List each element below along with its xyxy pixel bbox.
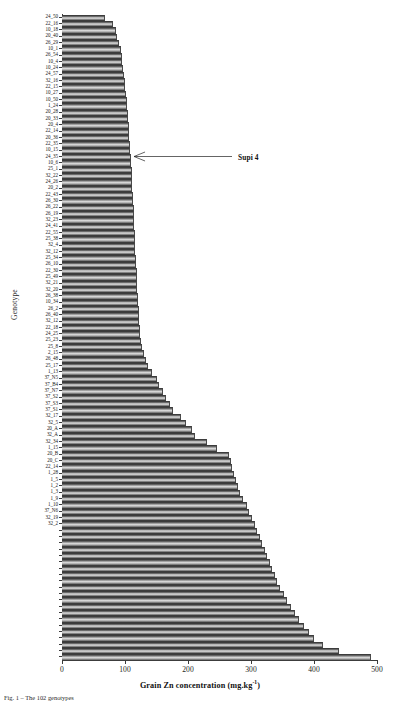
- genotype-label: 25_49: [46, 273, 59, 279]
- bar: [62, 559, 270, 565]
- genotype-label: 10_1: [48, 45, 58, 51]
- bar: [62, 388, 163, 394]
- genotype-label: 22_35: [46, 140, 59, 146]
- genotype-label: 26_40: [46, 311, 59, 317]
- genotype-label: 22_15: [46, 83, 59, 89]
- genotype-label: 26_30: [46, 197, 59, 203]
- x-axis-tick-label: 400: [308, 665, 319, 674]
- x-axis-tick-label: 0: [60, 665, 64, 674]
- x-axis-tick: [251, 660, 252, 664]
- bar: [62, 312, 139, 318]
- genotype-label: 37_N7: [44, 387, 58, 393]
- bar: [62, 198, 133, 204]
- genotype-label: 1_24: [48, 102, 58, 108]
- bar: [62, 445, 217, 451]
- genotype-label: 24_25: [46, 330, 59, 336]
- bar: [62, 293, 138, 299]
- bar: [62, 654, 371, 660]
- bar: [62, 426, 192, 432]
- bar: [62, 616, 299, 622]
- bar: [62, 160, 131, 166]
- bar: [62, 65, 123, 71]
- bar: [62, 635, 314, 641]
- plot-area: 24_5022_1610_1820_4026_2910_126_5410_410…: [62, 14, 377, 660]
- genotype-label: 2_15: [48, 349, 58, 355]
- figure-container: Genotype 24_5022_1610_1820_4026_2910_126…: [0, 0, 400, 707]
- bar: [62, 464, 232, 470]
- genotype-label: 37_S1: [45, 406, 58, 412]
- bar: [62, 578, 277, 584]
- bar: [62, 27, 116, 33]
- x-axis-tick-label: 100: [119, 665, 130, 674]
- bar: [62, 483, 238, 489]
- genotype-label: 20_A: [47, 425, 58, 431]
- annotation-label: Supi 4: [238, 153, 259, 162]
- genotype-label: 10_6: [48, 159, 58, 165]
- genotype-label: 1_2: [51, 482, 59, 488]
- bar: [62, 141, 130, 147]
- bar: [62, 236, 135, 242]
- genotype-label: 24_26: [46, 178, 59, 184]
- genotype-label: 1_13: [48, 368, 58, 374]
- genotype-label: 1_10: [48, 501, 58, 507]
- bar: [62, 274, 137, 280]
- bar: [62, 521, 255, 527]
- bar: [62, 255, 136, 261]
- bar: [62, 597, 287, 603]
- y-axis-title: Genotype: [10, 265, 19, 345]
- genotype-label: 26_38: [46, 292, 59, 298]
- bar: [62, 502, 247, 508]
- bar: [62, 217, 134, 223]
- x-axis-tick-label: 500: [371, 665, 382, 674]
- bar: [62, 103, 127, 109]
- bar: [62, 369, 152, 375]
- x-axis-tick-label: 200: [182, 665, 193, 674]
- x-axis-tick: [314, 660, 315, 664]
- bar: [62, 407, 173, 413]
- figure-caption: Fig. 1 – The 102 genotypes: [4, 694, 396, 701]
- genotype-label: 25_34: [46, 254, 59, 260]
- x-axis-title-suffix: ): [257, 681, 260, 690]
- genotype-label: 32_23: [46, 216, 59, 222]
- bar: [62, 46, 121, 52]
- x-axis-tick: [62, 660, 63, 664]
- x-axis-tick: [125, 660, 126, 664]
- genotype-label: 10_18: [46, 26, 59, 32]
- bar: [62, 331, 140, 337]
- x-axis-tick-label: 300: [245, 665, 256, 674]
- genotype-label: 1_15: [48, 444, 58, 450]
- x-axis-tick: [188, 660, 189, 664]
- genotype-label: 20_4: [48, 121, 58, 127]
- bar: [62, 84, 125, 90]
- genotype-label: 32_2: [48, 520, 58, 526]
- bar: [62, 350, 144, 356]
- bar: [62, 122, 129, 128]
- x-axis-title-text: Grain Zn concentration (mg.kg: [140, 681, 253, 690]
- genotype-label: 25_38: [46, 235, 59, 241]
- bar: [62, 540, 262, 546]
- bar: [62, 179, 132, 185]
- genotype-label: 22_14: [46, 463, 59, 469]
- x-axis-tick: [377, 660, 378, 664]
- genotype-label: 10_24: [46, 64, 59, 70]
- x-axis-title: Grain Zn concentration (mg.kg-1): [0, 679, 400, 690]
